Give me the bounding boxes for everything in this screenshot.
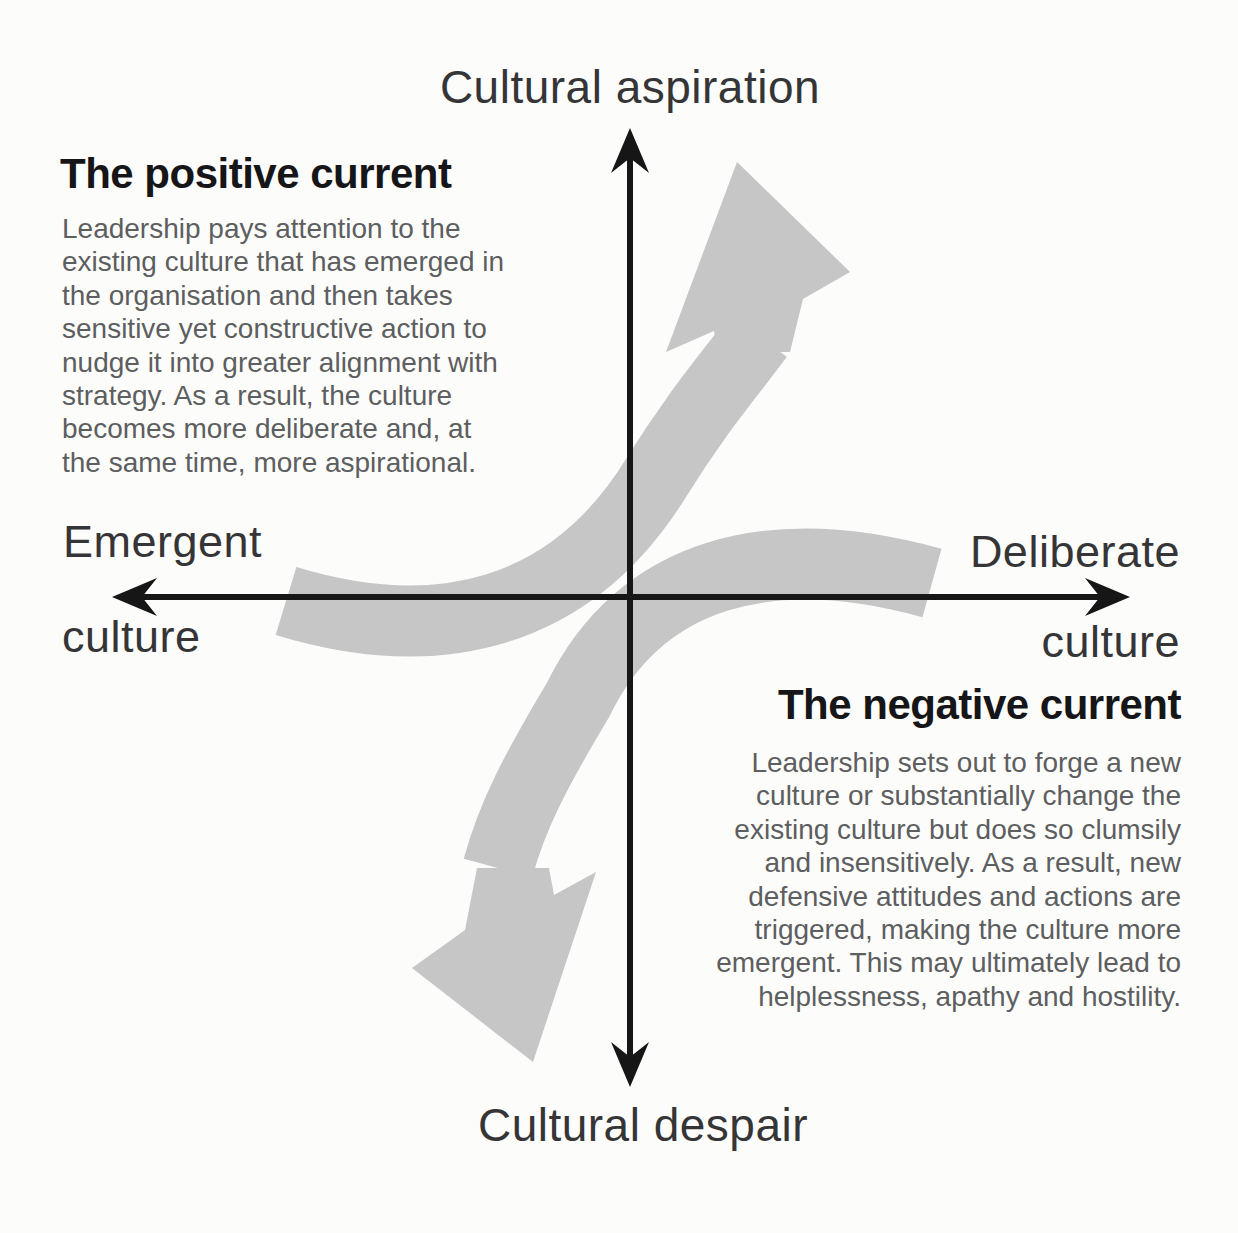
axis-label-emergent: Emergent — [63, 516, 262, 568]
axis-label-deliberate-culture: culture — [1041, 616, 1180, 668]
axis-label-deliberate: Deliberate — [970, 526, 1180, 578]
culture-currents-diagram: Cultural aspiration Cultural despair Eme… — [0, 0, 1238, 1233]
axis-label-cultural-aspiration: Cultural aspiration — [440, 60, 820, 114]
negative-current-arrow-head — [412, 868, 596, 1062]
negative-current-description: Leadership sets out to forge a new cultu… — [661, 746, 1181, 1013]
positive-current-title: The positive current — [60, 150, 451, 198]
negative-current-title: The negative current — [778, 681, 1181, 729]
positive-current-arrow-head — [666, 162, 850, 352]
positive-current-description: Leadership pays attention to the existin… — [62, 212, 572, 479]
axis-label-emergent-culture: culture — [62, 611, 201, 663]
axis-label-cultural-despair: Cultural despair — [478, 1098, 808, 1152]
